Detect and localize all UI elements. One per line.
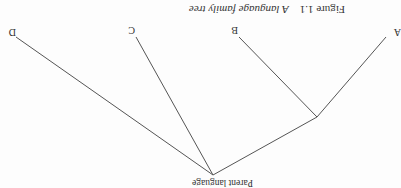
edge-root-ab — [213, 117, 317, 175]
leaf-d-label: D — [9, 27, 16, 38]
figure-caption: Figure 1.1 A language family tree — [189, 4, 345, 16]
leaf-c-label: C — [128, 25, 135, 36]
edge-root-d — [16, 37, 213, 175]
rotated-figure: Parent language A B C D Figure 1.1 A lan… — [0, 0, 401, 188]
edge-ab-a — [317, 37, 386, 117]
root-node-label: Parent language — [192, 178, 253, 188]
figure: Parent language A B C D Figure 1.1 A lan… — [0, 0, 401, 188]
leaf-a-label: A — [394, 27, 401, 38]
leaf-b-label: B — [231, 25, 238, 36]
tree-lines — [0, 0, 401, 188]
figure-title: A language family tree — [189, 4, 289, 16]
figure-number: Figure 1.1 — [300, 4, 345, 16]
edge-root-c — [136, 37, 213, 175]
edge-ab-b — [239, 37, 317, 117]
